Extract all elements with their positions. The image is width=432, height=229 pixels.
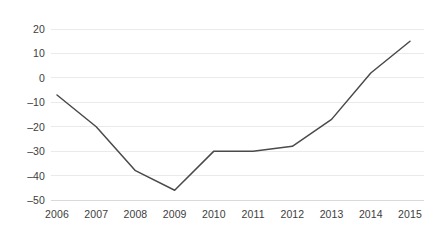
y-axis-tick-label: –10	[0, 97, 45, 108]
chart-plot-area	[0, 0, 432, 229]
gridlines-group	[51, 29, 424, 200]
x-axis-tick-label: 2015	[386, 209, 432, 220]
y-axis-tick-label: 20	[0, 24, 45, 35]
data-line-1	[57, 41, 410, 190]
y-axis-tick-label: –40	[0, 171, 45, 182]
y-axis-tick-label: –20	[0, 122, 45, 133]
line-chart: 20100–10–20–30–40–50 2006200720082009201…	[0, 0, 432, 229]
data-series-group	[57, 41, 410, 190]
y-axis-tick-label: 0	[0, 73, 45, 84]
y-axis-tick-label: –30	[0, 146, 45, 157]
y-axis-tick-label: –50	[0, 195, 45, 206]
y-axis-tick-label: 10	[0, 48, 45, 59]
